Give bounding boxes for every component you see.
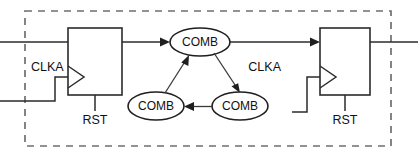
left-flipflop-body xyxy=(68,28,122,95)
right-clock-wire xyxy=(292,77,320,112)
arrow-head-into-comb-bottom-left xyxy=(184,102,194,111)
arrow-head-into-ff-right xyxy=(310,38,320,47)
left-clka-label: CLKA xyxy=(31,60,64,74)
right-clka-label: CLKA xyxy=(248,60,281,74)
comb-bottom-left-to-top-wire xyxy=(165,60,186,93)
right-rst-label: RST xyxy=(333,113,358,127)
arrow-head-into-comb-top xyxy=(160,38,170,47)
comb-top-to-bottom-right-wire xyxy=(214,53,237,88)
comb-top-label: COMB xyxy=(182,35,218,49)
comb-bottom-right-label: COMB xyxy=(222,99,258,113)
left-clock-wire xyxy=(0,77,68,101)
right-flipflop-body xyxy=(320,28,370,95)
circuit-diagram: CLKA RST COMB COMB COMB CL xyxy=(0,0,418,155)
left-rst-label: RST xyxy=(83,113,108,127)
circuit-canvas: CLKA RST COMB COMB COMB CL xyxy=(0,0,418,155)
comb-bottom-left-label: COMB xyxy=(138,99,174,113)
